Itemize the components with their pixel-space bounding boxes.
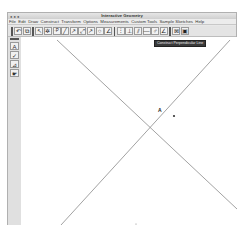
menu-sample-sketches[interactable]: Sample Sketches [160,19,193,24]
canvas-bottom-marker [135,223,136,224]
check-tool-icon[interactable]: ✓ [10,51,19,59]
menu-file[interactable]: File [9,19,16,24]
parallel-icon[interactable]: ⫽ [134,27,142,35]
menu-help[interactable]: Help [195,19,204,24]
menu-construct[interactable]: Construct [41,19,59,24]
angle-icon[interactable]: ∠ [104,27,112,35]
toolbar-separator [11,27,13,36]
menu-draw[interactable]: Draw [28,19,38,24]
point-icon[interactable]: ·P [53,27,61,35]
angle-bisector-icon[interactable]: ∠ [160,27,168,35]
window-icon[interactable]: ▣ [181,27,189,35]
menu-transform[interactable]: Transform [61,19,80,24]
midpoint-icon[interactable]: ⫶ [117,27,125,35]
point-a-label: A [158,107,162,113]
app-window: ● ● ● Interactive Geometry File Edit Dra… [7,12,237,225]
menu-bar: File Edit Draw Construct Transform Optio… [8,19,236,25]
line-1[interactable] [57,40,237,209]
menu-options[interactable]: Options [83,19,98,24]
segment-icon[interactable]: ╱ [61,27,69,35]
toolbar: ↶ ⧉ ↖ ✲ ·P ╱ ↗ ⤢ ↗ ○ ∠ ⫶ ⊥ ⫽ — ♂ ∠ ⊠ ▣ [8,26,236,37]
rotate-icon[interactable]: ✲ [44,27,52,35]
ray-icon[interactable]: ↗ [70,27,78,35]
menu-measurements[interactable]: Measurements [100,19,128,24]
grid-icon[interactable]: ⊠ [172,27,180,35]
sketch-canvas[interactable] [21,37,237,225]
menu-custom-tools[interactable]: Custom Tools [131,19,157,24]
tool-palette: A ✓ ⊿ ☛ [8,37,22,225]
perpendicular-icon[interactable]: ⊥ [125,27,133,35]
undo-icon[interactable]: ↶ [14,27,22,35]
arc-icon[interactable]: ♂ [151,27,159,35]
vector-icon[interactable]: ↗ [87,27,95,35]
measure-tool-icon[interactable]: ⊿ [10,60,19,68]
toolbar-separator [114,27,116,36]
menu-edit[interactable]: Edit [18,19,25,24]
point-a[interactable] [173,115,175,117]
hand-tool-icon[interactable]: ☛ [10,69,19,77]
select-arrow-icon[interactable]: ↖ [35,27,43,35]
toolbar-separator [169,27,171,36]
tooltip: Construct Perpendicular Line [154,40,206,47]
copy-icon[interactable]: ⧉ [23,27,31,35]
palette-handle[interactable] [10,38,19,40]
bisector-icon[interactable]: — [143,27,151,35]
circle-icon[interactable]: ○ [96,27,104,35]
line-icon[interactable]: ⤢ [78,27,86,35]
toolbar-separator [32,27,34,36]
sketch-drawing [21,37,237,225]
text-tool-icon[interactable]: A [10,42,19,50]
